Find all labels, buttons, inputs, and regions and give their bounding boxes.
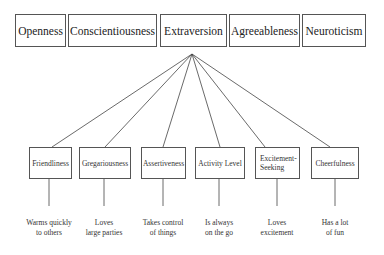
trait-label: Conscientiousness	[70, 25, 155, 37]
description-line: Is always	[187, 218, 251, 228]
facet-box-friendliness: Friendliness	[29, 147, 72, 179]
facet-description-excitement-seeking: Loves excitement	[245, 218, 309, 238]
description-line: on the go	[187, 228, 251, 238]
facet-box-excitement-seeking: Excitement-Seeking	[255, 147, 300, 179]
description-line: of things	[131, 228, 195, 238]
trait-label: Extraversion	[164, 25, 223, 37]
trait-box-conscientiousness: Conscientiousness	[68, 14, 157, 47]
description-line: excitement	[245, 228, 309, 238]
facet-box-cheerfulness: Cheerfulness	[311, 147, 359, 179]
facet-box-gregariousness: Gregariousness	[79, 147, 131, 179]
facet-label: Activity Level	[198, 159, 242, 168]
description-line: Has a lot	[303, 218, 367, 228]
facet-box-activity-level: Activity Level	[195, 147, 245, 179]
facet-box-assertiveness: Assertiveness	[141, 147, 186, 179]
trait-box-extraversion: Extraversion	[160, 14, 227, 47]
trait-box-neuroticism: Neuroticism	[302, 14, 366, 47]
trait-label: Agreeableness	[231, 25, 298, 37]
trait-label: Openness	[18, 25, 63, 37]
description-line: Takes control	[131, 218, 195, 228]
description-line: of fun	[303, 228, 367, 238]
facet-description-cheerfulness: Has a lot of fun	[303, 218, 367, 238]
description-line: Loves	[245, 218, 309, 228]
description-line: large parties	[72, 228, 136, 238]
facet-label: Excitement-Seeking	[260, 154, 296, 172]
facet-description-assertiveness: Takes control of things	[131, 218, 195, 238]
facet-description-gregariousness: Loves large parties	[72, 218, 136, 238]
trait-label: Neuroticism	[306, 25, 363, 37]
trait-box-agreeableness: Agreeableness	[229, 14, 300, 47]
facet-label: Cheerfulness	[315, 159, 354, 168]
facet-label: Gregariousness	[82, 159, 128, 168]
trait-box-openness: Openness	[15, 14, 66, 47]
facet-label: Assertiveness	[143, 159, 184, 168]
facet-description-activity-level: Is always on the go	[187, 218, 251, 238]
description-line: Loves	[72, 218, 136, 228]
facet-label: Friendliness	[32, 159, 69, 168]
